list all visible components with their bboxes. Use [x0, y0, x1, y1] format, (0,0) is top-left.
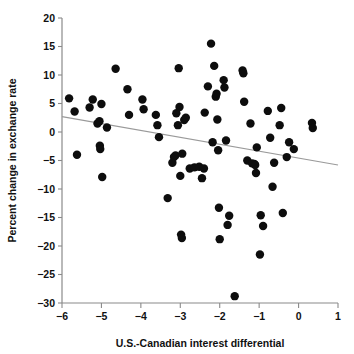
- y-tick-label: 10: [43, 69, 55, 81]
- data-point: [222, 136, 230, 144]
- data-point: [138, 95, 146, 103]
- data-point: [207, 39, 215, 47]
- scatter-plot-figure: −30−25−20−15−10−505101520 −6−5−4−3−2−101…: [0, 0, 354, 354]
- data-point: [152, 111, 160, 119]
- data-point: [253, 143, 261, 151]
- data-point: [198, 174, 206, 182]
- x-tick-label: −1: [253, 310, 265, 322]
- data-point: [266, 134, 274, 142]
- data-point: [178, 234, 186, 242]
- data-point: [125, 111, 133, 119]
- data-point: [213, 115, 221, 123]
- data-point: [96, 145, 104, 153]
- data-point: [163, 194, 171, 202]
- y-tick-label: 5: [49, 97, 55, 109]
- y-tick-label: 0: [49, 126, 55, 138]
- data-point: [139, 105, 147, 113]
- data-point: [201, 108, 209, 116]
- data-point: [70, 107, 78, 115]
- data-point: [175, 64, 183, 72]
- y-tick-label: −10: [37, 183, 55, 195]
- y-tick-label: −15: [37, 211, 55, 223]
- data-point: [204, 82, 212, 90]
- data-point: [268, 183, 276, 191]
- data-point: [123, 85, 131, 93]
- data-point: [290, 145, 298, 153]
- y-tick-label: −5: [43, 154, 55, 166]
- data-point: [182, 114, 190, 122]
- data-point: [309, 124, 317, 132]
- x-tick-label: −6: [56, 310, 68, 322]
- data-point: [220, 83, 228, 91]
- data-point: [176, 172, 184, 180]
- data-point: [223, 221, 231, 229]
- y-axis-ticks: −30−25−20−15−10−505101520: [37, 12, 62, 309]
- y-tick-label: 15: [43, 40, 55, 52]
- x-tick-label: −5: [95, 310, 107, 322]
- y-tick-label: 20: [43, 12, 55, 24]
- data-point: [240, 98, 248, 106]
- data-point: [283, 153, 291, 161]
- data-point: [252, 169, 260, 177]
- x-axis-ticks: −6−5−4−3−2−101: [56, 303, 341, 322]
- data-point: [259, 222, 267, 230]
- data-point: [85, 103, 93, 111]
- data-point: [219, 76, 227, 84]
- data-point: [214, 146, 222, 154]
- x-tick-label: −4: [135, 310, 147, 322]
- chart-canvas: −30−25−20−15−10−505101520 −6−5−4−3−2−101…: [0, 0, 354, 354]
- data-point: [275, 121, 283, 129]
- data-point: [256, 250, 264, 258]
- data-point: [200, 164, 208, 172]
- data-point: [231, 292, 239, 300]
- data-point: [98, 173, 106, 181]
- data-point: [178, 149, 186, 157]
- y-tick-label: −25: [37, 268, 55, 280]
- data-point: [155, 133, 163, 141]
- data-point: [65, 94, 73, 102]
- data-point: [97, 100, 105, 108]
- x-tick-label: −2: [214, 310, 226, 322]
- data-point: [285, 138, 293, 146]
- data-point: [103, 123, 111, 131]
- data-point: [175, 103, 183, 111]
- x-axis-title: U.S.-Canadian interest differential: [116, 337, 285, 349]
- data-point: [279, 209, 287, 217]
- x-tick-label: 0: [296, 310, 302, 322]
- data-point: [89, 95, 97, 103]
- data-point: [73, 151, 81, 159]
- x-tick-label: 1: [335, 310, 341, 322]
- data-point: [210, 62, 218, 70]
- regression-trend-line: [62, 117, 338, 165]
- data-points-group: [65, 39, 317, 300]
- data-point: [153, 121, 161, 129]
- data-point: [111, 65, 119, 73]
- data-point: [95, 117, 103, 125]
- data-point: [225, 212, 233, 220]
- y-tick-label: −30: [37, 297, 55, 309]
- data-point: [277, 104, 285, 112]
- y-tick-label: −20: [37, 240, 55, 252]
- data-point: [212, 90, 220, 98]
- data-point: [251, 161, 259, 169]
- data-point: [246, 119, 254, 127]
- data-point: [216, 235, 224, 243]
- data-point: [270, 159, 278, 167]
- y-axis-title: Percent change in exchange rate: [6, 78, 18, 242]
- data-point: [215, 204, 223, 212]
- data-point: [208, 138, 216, 146]
- x-tick-label: −3: [174, 310, 186, 322]
- data-point: [257, 211, 265, 219]
- data-point: [264, 107, 272, 115]
- data-point: [239, 69, 247, 77]
